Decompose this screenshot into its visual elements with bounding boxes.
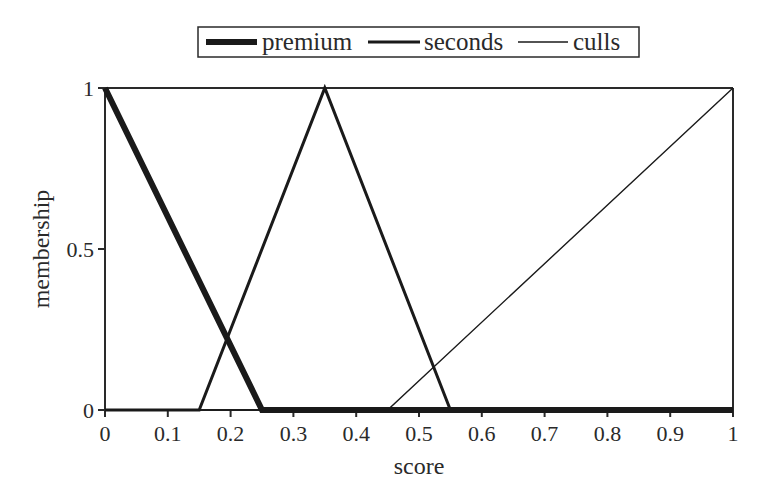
plot-frame [105, 88, 733, 410]
x-tick-label: 0.4 [342, 421, 370, 446]
x-tick-label: 0.2 [217, 421, 245, 446]
y-tick-label: 0 [83, 398, 94, 423]
series-line-premium [105, 88, 733, 410]
x-tick-label: 1 [728, 421, 739, 446]
x-tick-label: 0.8 [594, 421, 622, 446]
legend-label-culls: culls [573, 28, 620, 55]
legend-label-premium: premium [262, 28, 353, 55]
y-axis-title: membership [28, 190, 54, 309]
y-tick-label: 1 [83, 76, 94, 101]
x-tick-label: 0 [100, 421, 111, 446]
x-axis-ticks: 00.10.20.30.40.50.60.70.80.91 [100, 410, 739, 446]
y-tick-label: 0.5 [67, 237, 95, 262]
x-tick-label: 0.7 [531, 421, 559, 446]
membership-chart: premium seconds culls 00.10.20.30.40.50.… [0, 0, 768, 502]
x-axis-title: score [394, 453, 445, 479]
y-axis-ticks: 00.51 [67, 76, 106, 423]
x-tick-label: 0.3 [280, 421, 308, 446]
series-line-culls [105, 88, 733, 410]
series-lines [105, 88, 733, 410]
legend-label-seconds: seconds [424, 28, 503, 55]
series-line-seconds [105, 88, 733, 410]
x-tick-label: 0.6 [468, 421, 496, 446]
legend: premium seconds culls [198, 27, 639, 57]
x-tick-label: 0.1 [154, 421, 182, 446]
x-tick-label: 0.5 [405, 421, 433, 446]
x-tick-label: 0.9 [656, 421, 684, 446]
